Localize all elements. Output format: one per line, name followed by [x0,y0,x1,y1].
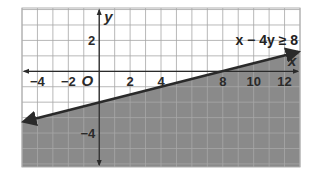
x-axis-label: x [287,52,297,69]
x-tick-label: −4 [30,74,46,89]
y-tick-label: 2 [88,33,95,48]
x-tick-label: 8 [219,74,226,89]
plot-area: −4−224810122−4Oyxx − 4y ≥ 8 [22,8,300,167]
y-tick-label: −4 [80,126,96,141]
x-tick-label: 12 [277,74,291,89]
x-tick-label: 2 [126,74,133,89]
y-axis-label: y [103,8,113,25]
inequality-graph: −4−224810122−4Oyxx − 4y ≥ 8 [0,0,315,179]
x-tick-label: 10 [246,74,260,89]
x-tick-label: −2 [61,74,76,89]
inequality-label: x − 4y ≥ 8 [235,32,298,48]
x-tick-label: 4 [157,74,165,89]
origin-label: O [82,72,94,89]
